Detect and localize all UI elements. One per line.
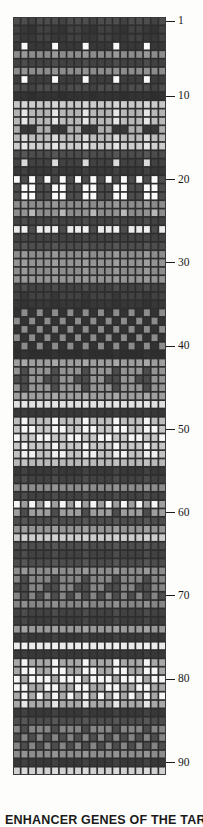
tick-mark-icon bbox=[166, 21, 175, 22]
tick-mark-icon bbox=[166, 512, 175, 513]
tick-mark-icon bbox=[166, 262, 175, 263]
axis-tick-label: 60 bbox=[178, 507, 190, 519]
heatmap-plot-area bbox=[13, 17, 166, 775]
axis-tick-label: 70 bbox=[178, 590, 190, 602]
tick-mark-icon bbox=[166, 346, 175, 347]
tick-mark-icon bbox=[166, 179, 175, 180]
tick-mark-icon bbox=[166, 762, 175, 763]
axis-tick-label: 30 bbox=[178, 257, 190, 269]
axis-tick-label: 80 bbox=[178, 673, 190, 685]
heatmap-figure: 1102030405060708090 ENHANCER GENES OF TH… bbox=[0, 0, 203, 827]
axis-tick-label: 40 bbox=[178, 340, 190, 352]
axis-tick-label: 1 bbox=[178, 15, 184, 27]
tick-mark-icon bbox=[166, 595, 175, 596]
tick-mark-icon bbox=[166, 96, 175, 97]
tick-mark-icon bbox=[166, 679, 175, 680]
figure-caption: ENHANCER GENES OF THE TARGET bbox=[0, 814, 203, 827]
figure-caption-text: ENHANCER GENES OF THE TARGET bbox=[5, 814, 203, 827]
tick-mark-icon bbox=[166, 429, 175, 430]
axis-tick-label: 20 bbox=[178, 174, 190, 186]
heatmap-matrix bbox=[13, 17, 166, 775]
axis-tick-label: 50 bbox=[178, 424, 190, 436]
axis-tick-label: 10 bbox=[178, 90, 190, 102]
axis-tick-label: 90 bbox=[178, 757, 190, 769]
row-index-axis: 1102030405060708090 bbox=[166, 17, 203, 775]
